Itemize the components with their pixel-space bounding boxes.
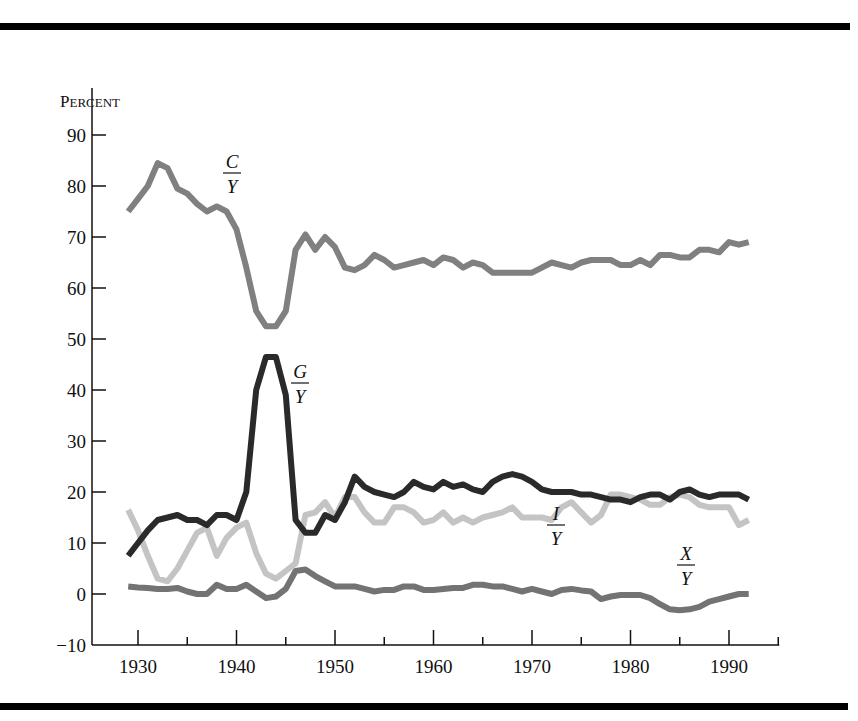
y-tick-label: 30 [67, 431, 86, 452]
svg-text:Y: Y [551, 528, 564, 549]
y-tick-label: 90 [67, 125, 86, 146]
x-tick-label: 1960 [415, 656, 453, 677]
series-line-c-y [128, 163, 749, 326]
y-tick-label: 0 [77, 584, 87, 605]
x-tick-label: 1950 [316, 656, 354, 677]
series-line-g-y [128, 357, 749, 556]
series-label-x-y: XY [677, 543, 695, 589]
svg-text:C: C [226, 151, 239, 172]
series-line-i-y [128, 495, 749, 582]
series-line-x-y [128, 570, 749, 611]
svg-text:Y: Y [227, 176, 240, 197]
series-label-g-y: GY [291, 361, 309, 407]
svg-text:G: G [293, 361, 307, 382]
line-chart: −100102030405060708090193019401950196019… [0, 0, 858, 721]
y-tick-label: 80 [67, 176, 86, 197]
y-axis-label: PERCENT [60, 92, 120, 111]
y-tick-label: 50 [67, 329, 86, 350]
y-tick-label: −10 [56, 635, 86, 656]
series-labels: CYGYIYXY [223, 151, 695, 589]
series-lines [128, 163, 749, 610]
y-tick-label: 70 [67, 227, 86, 248]
svg-text:Y: Y [295, 386, 308, 407]
x-tick-label: 1940 [218, 656, 256, 677]
y-tick-label: 20 [67, 482, 86, 503]
series-label-c-y: CY [223, 151, 241, 197]
y-tick-label: 60 [67, 278, 86, 299]
x-tick-label: 1980 [612, 656, 650, 677]
x-tick-label: 1990 [710, 656, 748, 677]
svg-text:X: X [679, 543, 693, 564]
y-tick-label: 10 [67, 533, 86, 554]
x-tick-label: 1970 [513, 656, 551, 677]
x-tick-label: 1930 [119, 656, 157, 677]
y-tick-label: 40 [67, 380, 86, 401]
svg-text:Y: Y [681, 568, 694, 589]
